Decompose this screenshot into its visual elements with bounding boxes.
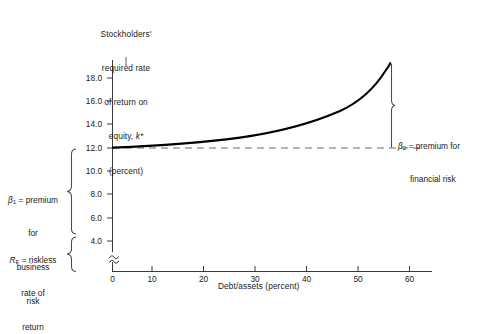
y-tick-label-18: 18.0	[74, 74, 102, 83]
annotation-rf-symbol: R	[10, 255, 16, 265]
y-axis-title-line-4: equity, k*	[70, 131, 182, 142]
annotation-rf-line-2: rate of	[2, 288, 64, 299]
annotation-rf-subscript: F	[16, 258, 20, 265]
annotation-beta2-line-1: β2 = premium for	[398, 141, 484, 152]
annotation-beta2-subscript: 2	[403, 144, 406, 151]
y-tick-label-4: 4.0	[74, 237, 102, 246]
annotation-beta2: β2 = premium for financial risk	[398, 118, 484, 208]
annotation-rf-text-1: = riskless	[22, 255, 57, 265]
y-tick-label-6: 6.0	[74, 214, 102, 223]
beta2-brace	[392, 64, 396, 148]
x-tick-label-50: 50	[345, 275, 371, 284]
y-tick-label-10: 10.0	[74, 167, 102, 176]
x-tick-label-60: 60	[397, 275, 423, 284]
x-tick-label-40: 40	[294, 275, 320, 284]
annotation-beta1-line-1: β1 = premium	[2, 195, 64, 206]
annotation-rf-line-3: return	[2, 322, 64, 333]
x-tick-label-10: 10	[139, 275, 165, 284]
y-tick-label-16: 16.0	[74, 97, 102, 106]
annotation-beta1-text-1: = premium	[19, 195, 58, 205]
y-axis-break-icon	[109, 256, 119, 264]
annotation-rf-line-1: RF = riskless	[2, 255, 64, 266]
y-axis-title-symbol: k*	[136, 131, 144, 141]
y-tick-label-14: 14.0	[74, 120, 102, 129]
y-tick-label-12: 12.0	[74, 144, 102, 153]
y-axis-title-line-1: Stockholders'	[70, 29, 182, 40]
x-tick-label-30: 30	[242, 275, 268, 284]
annotation-beta2-line-2: financial risk	[398, 174, 484, 185]
x-tick-label-20: 20	[191, 275, 217, 284]
annotation-rf: RF = riskless rate of return	[2, 232, 64, 334]
annotation-beta1-subscript: 1	[13, 198, 16, 205]
annotation-beta2-text-1: = premium for	[409, 141, 460, 151]
x-axis-ticks	[113, 266, 410, 272]
x-tick-label-0: 0	[100, 275, 126, 284]
y-axis-title-equity-word: equity,	[109, 131, 136, 141]
y-tick-label-8: 8.0	[74, 190, 102, 199]
